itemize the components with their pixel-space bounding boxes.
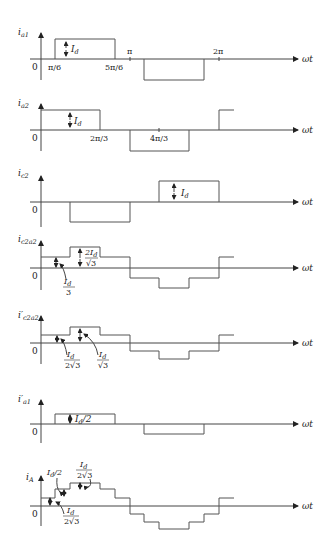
waveform-repeat	[219, 110, 234, 130]
amplitude-label: Id	[180, 188, 189, 200]
svg-text:2√3: 2√3	[65, 361, 80, 370]
origin-label: 0	[32, 271, 38, 281]
axis-label: ωt	[302, 419, 313, 429]
ylabel: i′a1	[18, 394, 31, 406]
amplitude-label: Id	[73, 116, 82, 128]
tick-5pi6: 5π/6	[105, 63, 123, 72]
origin-label: 0	[32, 509, 38, 519]
waveform-neg	[70, 202, 130, 222]
svg-text:2√3: 2√3	[64, 517, 79, 526]
panel-ia2: ia2 ωt 0 Id 2π/3 4π/3	[18, 98, 313, 151]
panel-ic2a2-prime: i′c2a2 ωt 0 Id 2√3 Id √3	[18, 310, 313, 370]
annotation-id-sqrt3: Id	[98, 350, 106, 361]
svg-text:√3: √3	[98, 361, 108, 370]
svg-text:√3: √3	[86, 259, 96, 268]
axis-label: ωt	[302, 263, 313, 273]
panel-iA: iA ωt 0 Id/2 Id 2√3 Id 2√3	[26, 460, 313, 529]
waveform	[159, 181, 219, 202]
tick-4pi3: 4π/3	[150, 134, 168, 143]
origin-label: 0	[32, 205, 38, 215]
annotation-2id-sqrt3: 2Id	[84, 248, 97, 259]
annotation-id-2sqrt3-bottom: Id	[66, 506, 74, 517]
origin-label: 0	[32, 133, 38, 143]
axis-label: ωt	[302, 501, 313, 511]
origin-label: 0	[32, 427, 38, 437]
annotation-id-2sqrt3: Id	[66, 350, 74, 361]
ylabel: ia1	[18, 27, 29, 39]
annotation-id-3: Id	[63, 277, 71, 288]
tick-2pi: 2π	[213, 47, 223, 56]
annotation-id-2sqrt3-top: Id	[79, 460, 87, 471]
axis-label: ωt	[302, 54, 313, 64]
amplitude-label: Id	[70, 44, 79, 56]
tick-pi6: π/6	[48, 63, 61, 72]
svg-text:2√3: 2√3	[77, 471, 92, 480]
svg-text:3: 3	[66, 288, 71, 297]
origin-label: 0	[32, 346, 38, 356]
ylabel: ic2a2	[18, 234, 37, 246]
panel-ia1: ia1 ωt 0 Id π/6 5π/6 π 2π	[18, 27, 313, 80]
ylabel: iA	[26, 472, 34, 484]
tick-2pi3: 2π/3	[90, 134, 108, 143]
axis-label: ωt	[302, 197, 313, 207]
origin-label: 0	[32, 62, 38, 72]
axis-label: ωt	[302, 125, 313, 135]
panel-ic2a2: ic2a2 ωt 0 2Id √3 Id 3	[18, 234, 313, 297]
panel-ic2: ic2 ωt 0 Id	[18, 168, 313, 227]
waveform	[55, 39, 115, 59]
annotation-id-half: Id/2	[46, 468, 62, 479]
waveform-diagram: ia1 ωt 0 Id π/6 5π/6 π 2π ia2 ωt 0 Id 2π…	[0, 0, 329, 549]
waveform-neg	[144, 424, 204, 434]
tick-pi: π	[127, 47, 132, 56]
panel-ia1-prime: i′a1 ωt 0 Id/2	[18, 394, 313, 443]
waveform-neg	[144, 59, 204, 80]
axis-label: ωt	[302, 338, 313, 348]
ylabel: ic2	[18, 168, 29, 180]
ylabel: i′c2a2	[18, 310, 39, 322]
ylabel: ia2	[18, 98, 29, 110]
